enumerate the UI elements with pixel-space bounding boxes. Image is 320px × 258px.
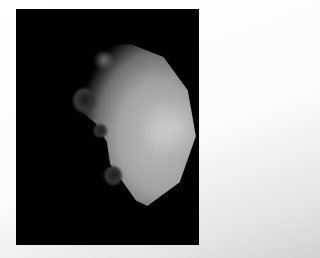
moon	[42, 35, 199, 219]
crater	[104, 166, 122, 186]
crater	[93, 124, 107, 138]
crater	[73, 88, 95, 114]
photo-frame	[16, 9, 199, 245]
crater	[93, 51, 115, 69]
